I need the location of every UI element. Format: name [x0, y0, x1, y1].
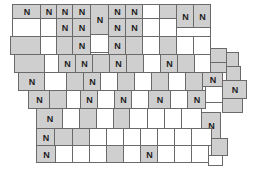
county-shaded: [222, 98, 243, 113]
county-n-label: N: [46, 8, 53, 17]
county-shaded: [54, 128, 73, 146]
county: [131, 90, 149, 109]
county-n-label: N: [29, 78, 36, 87]
county: [123, 128, 141, 146]
county: [208, 155, 223, 166]
county-n-label: N: [114, 8, 121, 17]
iowa-county-map: NNNNNNNNNNNNNNNNNNNNNNNNNNNNNNNNN: [0, 0, 261, 181]
county-n-label: N: [166, 60, 173, 69]
county-n-label: N: [199, 12, 206, 21]
county: [174, 128, 192, 146]
county: [164, 108, 182, 129]
county: [40, 18, 57, 37]
county-shaded: [49, 90, 67, 109]
county: [181, 108, 202, 129]
county-n-label: N: [131, 24, 138, 33]
county-n-label: N: [232, 86, 239, 95]
county-shaded: [66, 72, 84, 91]
county-shaded: [211, 138, 228, 156]
county-n-label: N: [194, 96, 201, 105]
county-shaded: [106, 145, 124, 163]
county-shaded: [185, 72, 203, 91]
county: [143, 54, 161, 73]
county: [55, 145, 73, 163]
county: [176, 36, 194, 55]
county-n-label: N: [115, 60, 122, 69]
county-n-label: N: [79, 8, 86, 17]
county-n-label: N: [146, 150, 153, 159]
county: [44, 54, 59, 73]
county-shaded: [226, 52, 239, 67]
county: [12, 18, 41, 37]
county: [72, 145, 90, 163]
county-n-label: N: [131, 8, 138, 17]
county: [62, 108, 80, 129]
county: [142, 4, 160, 19]
county: [129, 108, 148, 129]
county: [142, 36, 160, 55]
county: [168, 72, 186, 91]
county: [147, 108, 165, 129]
county: [40, 36, 57, 55]
county: [134, 72, 152, 91]
county-n-label: N: [210, 76, 217, 85]
county-n-label: N: [157, 96, 164, 105]
county-shaded: [113, 108, 130, 129]
county: [157, 145, 175, 163]
county: [194, 54, 211, 73]
county-n-label: N: [62, 24, 69, 33]
county-shaded: [159, 4, 177, 19]
county-n-label: N: [79, 42, 86, 51]
county-shaded: [56, 36, 73, 55]
county: [191, 128, 212, 146]
county-shaded: [79, 108, 97, 129]
county-n-label: N: [81, 60, 88, 69]
county-n-label: N: [114, 24, 121, 33]
county-n-label: N: [79, 24, 86, 33]
county-shaded: [125, 36, 143, 55]
county-n-label: N: [36, 96, 43, 105]
county-shaded: [92, 54, 110, 73]
county: [66, 90, 81, 109]
county-shaded: [10, 36, 41, 55]
county-shaded: [126, 54, 144, 73]
county-shaded: [151, 72, 169, 91]
county: [123, 145, 141, 163]
county-n-label: N: [114, 42, 121, 51]
county-n-label: N: [86, 96, 93, 105]
county: [142, 18, 160, 37]
county-n-label: N: [47, 115, 54, 124]
county: [193, 36, 211, 55]
county-shaded: [72, 128, 90, 146]
county: [97, 90, 115, 109]
county: [157, 128, 175, 146]
county-n-label: N: [64, 60, 71, 69]
county-shaded: [159, 36, 177, 55]
county-n-label: N: [89, 78, 96, 87]
county: [96, 108, 114, 129]
county-n-label: N: [97, 16, 104, 25]
county: [191, 145, 209, 163]
county: [205, 86, 223, 103]
county: [44, 72, 67, 91]
county-shaded: [226, 66, 241, 81]
county: [140, 128, 158, 146]
county: [89, 128, 107, 146]
county-shaded: [14, 54, 45, 73]
county-n-label: N: [182, 12, 189, 21]
county: [170, 90, 188, 109]
county-shaded: [210, 48, 227, 63]
county: [90, 34, 109, 53]
county-n-label: N: [120, 96, 127, 105]
county-n-label: N: [43, 133, 50, 142]
county: [174, 145, 192, 163]
county-n-label: N: [24, 8, 31, 17]
county-shaded: [177, 54, 195, 73]
county: [106, 128, 124, 146]
county: [159, 18, 177, 37]
county: [100, 72, 118, 91]
county: [89, 145, 107, 163]
county-n-label: N: [43, 150, 50, 159]
county-shaded: [117, 72, 135, 91]
county-n-label: N: [62, 8, 69, 17]
